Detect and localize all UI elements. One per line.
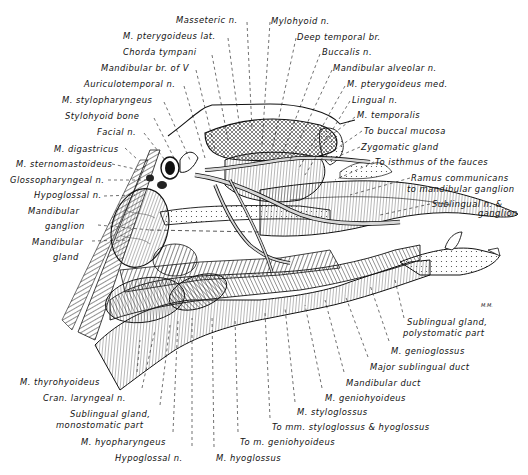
label-sublingual-nerve-ganglion-line2: ganglion	[478, 208, 518, 218]
label-to-isthmus-of-fauces: To isthmus of the fauces	[375, 157, 488, 167]
label-m-geniohyoideus: M. geniohyoideus	[325, 393, 406, 403]
label-m-stylopharyngeus: M. stylopharyngeus	[62, 95, 152, 105]
label-m-digastricus: M. digastricus	[54, 144, 119, 154]
artist-signature: M.M.	[481, 302, 493, 308]
label-lingual-nerve: Lingual n.	[352, 95, 398, 105]
label-mandibular-gland: Mandibular	[32, 237, 83, 247]
label-mandibular-ganglion-line2: ganglion	[45, 221, 85, 231]
label-facial-nerve: Facial n.	[97, 127, 136, 137]
label-mandibular-gland-line2: gland	[53, 252, 79, 262]
label-masseteric-nerve: Masseteric n.	[176, 15, 238, 25]
label-mandibular-duct: Mandibular duct	[346, 378, 421, 388]
label-mylohyoid-nerve: Mylohyoid n.	[271, 16, 330, 26]
label-chorda-tympani: Chorda tympani	[123, 47, 197, 57]
label-hypoglossal-nerve-left: Hypoglossal n.	[34, 190, 102, 200]
label-deep-temporal-br: Deep temporal br.	[297, 32, 381, 42]
label-major-sublingual-duct: Major sublingual duct	[370, 362, 470, 372]
label-sublingual-gland-monostomatic-line2: monostomatic part	[56, 420, 143, 430]
label-ramus-communicans: Ramus communicans	[411, 173, 509, 183]
label-hypoglossal-nerve-bottom: Hypoglossal n.	[115, 453, 183, 463]
label-stylohyoid-bone: Stylohyoid bone	[65, 111, 139, 121]
label-sublingual-gland-polystomatic-line2: polystomatic part	[403, 328, 485, 338]
label-m-sternomastoideus: M. sternomastoideus	[16, 159, 112, 169]
label-mandibular-alveolar-nerve: Mandibular alveolar n.	[333, 63, 437, 73]
label-cran-laryngeal-nerve: Cran. laryngeal n.	[43, 393, 126, 403]
label-mandibular-br-of-v: Mandibular br. of V	[101, 63, 189, 73]
label-buccalis-nerve: Buccalis n.	[322, 47, 372, 57]
label-glossopharyngeal-nerve: Glossopharyngeal n.	[10, 175, 104, 185]
label-ramus-communicans-line2: to mandibular ganglion	[407, 184, 515, 194]
anatomy-figure: Masseteric n. M. pterygoideus lat. Chord…	[0, 0, 528, 475]
label-m-pterygoideus-med: M. pterygoideus med.	[347, 79, 448, 89]
label-m-genioglossus: M. genioglossus	[391, 346, 465, 356]
label-sublingual-gland-polystomatic: Sublingual gland,	[407, 317, 487, 327]
label-auriculotemporal-nerve: Auriculotemporal n.	[84, 79, 175, 89]
label-to-mm-styloglossus-hyoglossus: To mm. styloglossus & hyoglossus	[272, 422, 430, 432]
label-sublingual-gland-monostomatic: Sublingual gland,	[70, 409, 150, 419]
label-m-hyopharyngeus: M. hyopharyngeus	[81, 437, 166, 447]
label-zygomatic-gland: Zygomatic gland	[361, 142, 438, 152]
label-m-pterygoideus-lat: M. pterygoideus lat.	[123, 31, 216, 41]
label-m-hyoglossus: M. hyoglossus	[216, 453, 281, 463]
label-m-thyrohyoideus: M. thyrohyoideus	[20, 377, 100, 387]
label-to-buccal-mucosa: To buccal mucosa	[364, 126, 446, 136]
label-m-temporalis: M. temporalis	[357, 110, 420, 120]
label-to-m-geniohyoideus: To m. geniohyoideus	[240, 437, 335, 447]
label-m-styloglossus: M. styloglossus	[297, 407, 368, 417]
label-mandibular-ganglion: Mandibular	[28, 206, 79, 216]
